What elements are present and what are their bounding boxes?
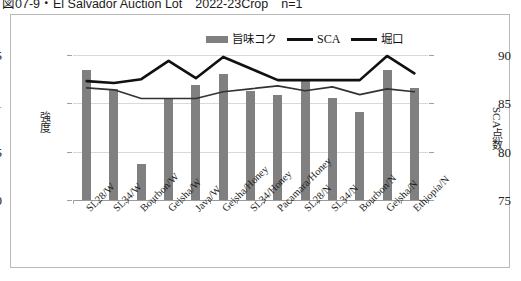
left-axis-tick-label: 0 [0, 194, 2, 207]
legend-label-umami: 旨味コク [232, 33, 276, 46]
right-axis-tick-label: 75 [498, 194, 521, 207]
chart-legend: 旨味コク SCA 堀口 [206, 32, 410, 47]
right-axis-title: SCA点数 [489, 107, 505, 150]
right-axis-tick [429, 55, 434, 56]
line-series-sca [87, 56, 415, 83]
right-axis-tick-label: 85 [498, 97, 521, 110]
right-axis-tick-label: 80 [498, 146, 521, 159]
right-axis-tick [429, 152, 434, 153]
left-axis-tick [67, 152, 72, 153]
left-axis-tick-label: 1 [0, 97, 2, 110]
right-axis-tick-label: 90 [498, 49, 521, 62]
left-axis-tick [67, 200, 72, 201]
legend-label-sca: SCA [317, 33, 340, 46]
legend-swatch-umami [206, 36, 228, 43]
legend-line-horiguchi [351, 38, 377, 41]
line-series-horiguchi [87, 86, 415, 99]
chart-page: 図07-9・El Salvador Auction Lot 2022-23Cro… [0, 0, 521, 281]
left-axis-tick [67, 55, 72, 56]
left-axis-title: 強度 [37, 111, 53, 133]
left-axis-tick-label: 0.5 [0, 146, 2, 159]
legend-label-horiguchi: 堀口 [381, 33, 403, 46]
chart-frame: 旨味コク SCA 堀口 強度 SCA点数 1.5901850.580075 SL… [10, 14, 510, 268]
left-axis-tick-label: 1.5 [0, 49, 2, 62]
x-axis-tick [73, 200, 74, 204]
figure-caption: 図07-9・El Salvador Auction Lot 2022-23Cro… [2, 0, 519, 12]
legend-line-sca [287, 38, 313, 41]
right-axis-tick [429, 103, 434, 104]
left-axis-tick [67, 103, 72, 104]
